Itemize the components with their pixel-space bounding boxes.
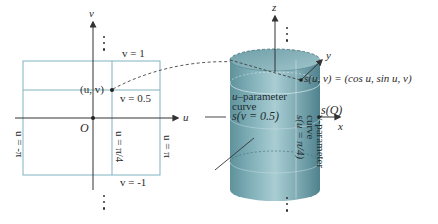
v-curve-line3: s(u = π/4) bbox=[296, 115, 306, 168]
z-axis-down-ellipsis bbox=[286, 197, 289, 216]
u-parameter-curve-label: u–parameter curve s(v = 0.5) bbox=[232, 91, 287, 121]
s-q-label: s(Q) bbox=[321, 104, 342, 116]
v-axis-label: v bbox=[89, 8, 94, 19]
v-parameter-curve-label: v-parameter curve s(u = π/4) bbox=[296, 115, 326, 168]
s-uv-point bbox=[299, 78, 303, 82]
z-axis-up-ellipsis bbox=[286, 27, 289, 46]
x-axis-label: x bbox=[338, 121, 343, 132]
diagram-graphics bbox=[0, 0, 438, 224]
y-axis-label: y bbox=[326, 50, 331, 61]
u-equals-pi-over-4-label: u = π/4 bbox=[114, 131, 125, 162]
u-equals-pi-label: u = π bbox=[162, 135, 173, 158]
v-curve-line1: v-parameter bbox=[316, 115, 326, 168]
v-equals-0.5-label: v = 0.5 bbox=[120, 93, 151, 104]
u-equals-minus-pi-label: u = -π bbox=[14, 131, 25, 157]
origin-label: O bbox=[80, 122, 89, 134]
uv-plane bbox=[15, 22, 178, 190]
u-curve-line3: s(v = 0.5) bbox=[232, 111, 287, 121]
u-axis-label: u bbox=[183, 112, 189, 123]
uv-point-label: (u, v) bbox=[80, 84, 104, 95]
origin-point bbox=[91, 116, 95, 120]
v-axis-down-ellipsis bbox=[103, 195, 106, 214]
v-axis-up-ellipsis bbox=[103, 36, 106, 55]
mapping-formula: s(u, v) = (cos u, sin u, v) bbox=[304, 73, 412, 84]
v-equals-minus-1-label: v = -1 bbox=[120, 177, 146, 188]
diagram-canvas: v u O v = 1 v = 0.5 v = -1 (u, v) u = -π… bbox=[0, 0, 438, 224]
v-equals-1-label: v = 1 bbox=[122, 48, 145, 59]
z-axis-label: z bbox=[272, 2, 276, 13]
